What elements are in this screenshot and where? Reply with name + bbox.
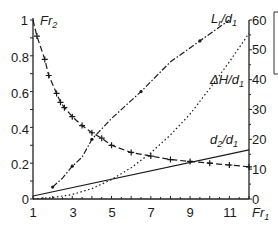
plus-marker [128, 149, 134, 155]
series-layer [33, 20, 252, 199]
dh-d1-label: ΔH/d1 [209, 72, 244, 89]
left-tick-0.8: 0.8 [11, 50, 29, 65]
x-tick-labels: 1 3 5 7 9 11 [29, 205, 236, 220]
dot-marker [90, 138, 93, 141]
dot-marker [51, 185, 54, 188]
right-tick-30: 30 [252, 102, 266, 117]
plus-marker [148, 153, 154, 159]
x-tick-3: 3 [69, 205, 76, 220]
plus-marker [42, 56, 48, 62]
left-tick-1: 1 [21, 13, 28, 28]
right-tick-40: 40 [252, 72, 266, 87]
series--h-d1-line [33, 33, 249, 199]
right-tick-50: 50 [252, 42, 266, 57]
x-tick-11: 11 [223, 205, 237, 220]
left-tick-0.6: 0.6 [11, 86, 29, 101]
x-tick-5: 5 [108, 205, 115, 220]
x-tick-7: 7 [147, 205, 154, 220]
plus-marker [109, 142, 115, 148]
plus-marker [54, 90, 60, 96]
lr-d1-label: Lr/d1 [211, 11, 237, 28]
right-tick-10: 10 [252, 162, 266, 177]
x-tick-9: 9 [186, 205, 193, 220]
dot-marker [198, 39, 201, 42]
fr1-axis-title: Fr1 [252, 205, 269, 222]
left-tick-0.2: 0.2 [11, 157, 29, 172]
series-d2-d1-line [33, 150, 249, 196]
plus-marker [207, 160, 213, 166]
d2-d1-label: d2/d1 [210, 132, 238, 149]
fr2-axis-title: Fr2 [40, 13, 57, 30]
right-tick-20: 20 [252, 132, 266, 147]
chart: 1 0.8 0.6 0.4 0.2 0 60 50 40 30 20 10 0 … [0, 0, 278, 230]
legend-frame-edge [274, 12, 278, 74]
plus-marker [57, 99, 63, 105]
right-tick-labels: 60 50 40 30 20 10 0 [252, 13, 266, 207]
left-tick-0.4: 0.4 [11, 122, 29, 137]
x-tick-1: 1 [29, 205, 36, 220]
plus-marker [34, 33, 40, 39]
plus-marker [226, 162, 232, 168]
dot-marker [139, 90, 142, 93]
left-tick-labels: 1 0.8 0.6 0.4 0.2 0 [11, 13, 29, 207]
plus-marker [46, 72, 52, 78]
plus-marker [167, 157, 173, 163]
dot-marker [71, 165, 74, 168]
tick-marks [30, 20, 252, 199]
right-tick-60: 60 [252, 13, 266, 28]
left-tick-0: 0 [22, 192, 29, 207]
